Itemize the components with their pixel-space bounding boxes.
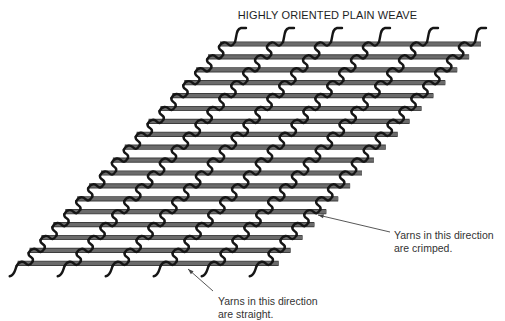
arrow-straight bbox=[188, 269, 213, 291]
annotation-straight-line1: Yarns in this direction bbox=[218, 295, 318, 308]
annotation-straight-line2: are straight. bbox=[218, 308, 318, 321]
annotation-crimped-line1: Yarns in this direction bbox=[394, 229, 494, 242]
arrow-crimped bbox=[318, 214, 390, 232]
annotation-crimped-line2: are crimped. bbox=[394, 242, 494, 255]
annotation-crimped: Yarns in this direction are crimped. bbox=[394, 229, 494, 255]
annotation-straight: Yarns in this direction are straight. bbox=[218, 295, 318, 321]
